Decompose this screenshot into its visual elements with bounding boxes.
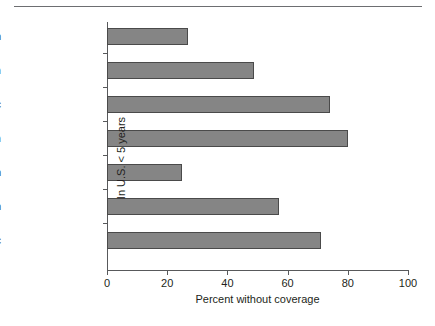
category-label-us-born: U.S.-born: [0, 31, 1, 42]
x-axis-tick: [167, 271, 168, 275]
y-axis-tick: [103, 121, 107, 122]
y-axis-tick: [103, 53, 107, 54]
bar-mexican: [107, 130, 348, 147]
category-label-mexican: Mexican: [0, 133, 1, 144]
x-axis-tick: [288, 271, 289, 275]
x-axis-tick: [348, 271, 349, 275]
bar-us-born: [107, 28, 188, 45]
category-label-foreign-born: Foreign-born: [0, 65, 1, 76]
y-axis-tick: [103, 223, 107, 224]
bar-cuban: [107, 198, 279, 215]
chart-figure: U.S.-born Foreign-born All Hispanic Mexi…: [0, 0, 435, 326]
x-axis-tick: [107, 271, 108, 275]
category-label-all-hispanic: All Hispanic: [0, 99, 1, 110]
category-label-puerto-rican: Puerto Rican: [0, 167, 1, 178]
category-label-other-hispanic: Other Hispanic: [0, 235, 1, 246]
x-axis-tick: [408, 271, 409, 275]
x-axis-tick-label: 0: [87, 277, 127, 289]
x-axis-tick-label: 80: [328, 277, 368, 289]
y-axis-tick: [103, 155, 107, 156]
x-axis-tick: [227, 271, 228, 275]
bar-other-hispanic: [107, 232, 321, 249]
plot-area: U.S.-born Foreign-born All Hispanic Mexi…: [107, 22, 408, 270]
bar-all-hispanic: [107, 96, 330, 113]
top-divider-rule: [14, 6, 422, 7]
x-axis-tick-label: 20: [147, 277, 187, 289]
x-axis-title: Percent without coverage: [107, 293, 408, 305]
x-axis-tick-label: 100: [388, 277, 428, 289]
category-label-cuban: Cuban: [0, 201, 1, 212]
y-axis-tick: [103, 189, 107, 190]
y-axis-title: In U.S. < 5 years: [115, 98, 127, 218]
y-axis-tick: [103, 87, 107, 88]
x-axis-line: [107, 270, 409, 271]
x-axis-tick-label: 40: [207, 277, 247, 289]
bar-foreign-born: [107, 62, 254, 79]
x-axis-tick-label: 60: [268, 277, 308, 289]
